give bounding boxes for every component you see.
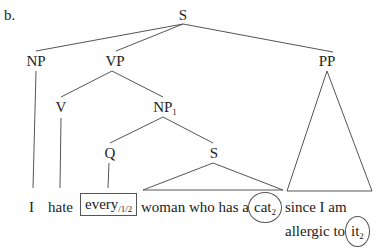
- inner-s-triangle: [143, 163, 283, 190]
- node-np1-base: NP: [153, 99, 172, 115]
- edge-q-every: [108, 163, 109, 188]
- cat-base: cat: [254, 199, 271, 215]
- word-cat: cat2: [248, 192, 282, 223]
- word-woman-phrase: woman who has a: [141, 200, 249, 215]
- node-np1: NP1: [153, 100, 177, 115]
- edge-vp-np1: [112, 71, 163, 97]
- edge-np1-s: [163, 117, 213, 143]
- node-vp: VP: [105, 54, 124, 69]
- node-np1-sub: 1: [172, 107, 177, 117]
- every-box: every/1/2: [80, 193, 137, 216]
- edge-v-hate: [60, 118, 61, 188]
- cat-circle: cat2: [248, 192, 282, 223]
- edge-np-i: [33, 71, 36, 188]
- word-it: it2: [345, 216, 370, 247]
- word-every: every/1/2: [80, 197, 137, 212]
- node-s-inner: S: [210, 146, 218, 161]
- cat-sub: 2: [271, 207, 276, 217]
- edge-s-pp: [183, 24, 333, 52]
- every-base: every: [85, 196, 118, 212]
- it-circle: it2: [345, 216, 370, 247]
- word-allergic: allergic to: [285, 224, 345, 239]
- node-s-root: S: [179, 8, 187, 23]
- word-hate: hate: [48, 200, 73, 215]
- edge-s-np: [36, 24, 183, 51]
- word-since: since I am: [285, 200, 347, 215]
- edge-s-vp: [116, 24, 183, 51]
- node-q: Q: [105, 146, 116, 161]
- pp-triangle: [287, 71, 372, 191]
- node-np: NP: [26, 54, 45, 69]
- node-v: V: [56, 100, 67, 115]
- every-sub: /1/2: [118, 204, 132, 214]
- edge-np1-q: [110, 117, 163, 143]
- example-label: b.: [4, 8, 15, 23]
- it-sub: 2: [359, 231, 364, 241]
- node-pp: PP: [319, 54, 336, 69]
- word-i: I: [29, 200, 34, 215]
- edge-vp-v: [61, 71, 112, 97]
